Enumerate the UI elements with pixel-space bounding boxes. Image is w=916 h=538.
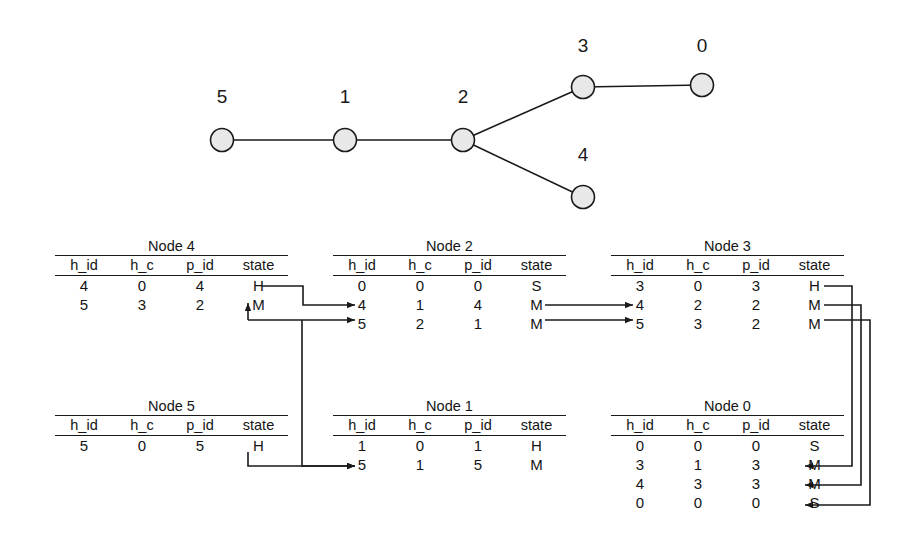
table-title: Node 2 [333, 238, 566, 255]
cell-p_id: 5 [449, 455, 507, 474]
column-header-state: state [507, 256, 566, 276]
column-header-p_id: p_id [727, 256, 785, 276]
column-header-h_id: h_id [611, 416, 669, 436]
table-node4: Node 4h_idh_cp_idstate404H532M [55, 238, 288, 314]
cell-state: S [507, 276, 566, 296]
column-header-h_id: h_id [55, 416, 113, 436]
cell-h_id: 3 [611, 455, 669, 474]
cell-state: H [229, 436, 288, 456]
table-grid: h_idh_cp_idstate000S313M433M000S [611, 416, 844, 512]
column-header-p_id: p_id [449, 256, 507, 276]
cell-h_c: 3 [669, 314, 727, 333]
cell-h_c: 1 [391, 455, 449, 474]
cell-h_id: 4 [611, 295, 669, 314]
table-header-row: h_idh_cp_idstate [333, 416, 566, 436]
cell-h_id: 5 [611, 314, 669, 333]
column-header-state: state [785, 256, 844, 276]
table-row: 521M [333, 314, 566, 333]
table-header-row: h_idh_cp_idstate [611, 256, 844, 276]
cell-p_id: 3 [727, 474, 785, 493]
table-title: Node 1 [333, 398, 566, 415]
cell-state: M [507, 295, 566, 314]
cell-p_id: 1 [449, 314, 507, 333]
cell-state: M [785, 455, 844, 474]
column-header-h_id: h_id [611, 256, 669, 276]
cell-p_id: 1 [449, 436, 507, 456]
column-header-p_id: p_id [449, 416, 507, 436]
cell-h_c: 0 [669, 276, 727, 296]
table-header-row: h_idh_cp_idstate [55, 256, 288, 276]
graph-node-3[interactable] [572, 76, 595, 99]
column-header-h_c: h_c [391, 416, 449, 436]
column-header-h_c: h_c [669, 256, 727, 276]
cell-h_c: 0 [391, 436, 449, 456]
cell-p_id: 3 [727, 276, 785, 296]
cell-h_id: 4 [55, 276, 113, 296]
graph-node-label-1: 1 [330, 87, 360, 106]
column-header-state: state [785, 416, 844, 436]
table-row: 515M [333, 455, 566, 474]
cell-p_id: 2 [171, 295, 229, 314]
graph-node-label-2: 2 [448, 87, 478, 106]
cell-h_c: 2 [391, 314, 449, 333]
table-row: 414M [333, 295, 566, 314]
cell-h_c: 3 [669, 474, 727, 493]
table-grid: h_idh_cp_idstate505H [55, 416, 288, 455]
table-title: Node 3 [611, 238, 844, 255]
figure-canvas: 512304 Node 4h_idh_cp_idstate404H532MNod… [0, 0, 916, 538]
column-header-state: state [507, 416, 566, 436]
cell-p_id: 4 [171, 276, 229, 296]
cell-p_id: 0 [727, 493, 785, 512]
column-header-h_id: h_id [55, 256, 113, 276]
column-header-h_c: h_c [113, 256, 171, 276]
cell-h_c: 1 [669, 455, 727, 474]
cell-state: M [785, 474, 844, 493]
cell-p_id: 2 [727, 314, 785, 333]
table-row: 000S [611, 436, 844, 456]
table-header-row: h_idh_cp_idstate [333, 256, 566, 276]
cell-h_c: 0 [669, 436, 727, 456]
column-header-p_id: p_id [727, 416, 785, 436]
table-row: 532M [55, 295, 288, 314]
table-node1: Node 1h_idh_cp_idstate101H515M [333, 398, 566, 474]
cell-h_c: 1 [391, 295, 449, 314]
cell-state: M [785, 314, 844, 333]
table-grid: h_idh_cp_idstate404H532M [55, 256, 288, 314]
cell-p_id: 0 [727, 436, 785, 456]
cell-state: M [785, 295, 844, 314]
cell-state: M [507, 314, 566, 333]
column-header-state: state [229, 256, 288, 276]
table-title: Node 0 [611, 398, 844, 415]
cell-state: H [785, 276, 844, 296]
column-header-h_c: h_c [391, 256, 449, 276]
table-row: 404H [55, 276, 288, 296]
graph-node-2[interactable] [452, 129, 475, 152]
table-row: 000S [611, 493, 844, 512]
cell-h_c: 0 [669, 493, 727, 512]
cell-h_id: 5 [55, 295, 113, 314]
cell-h_id: 3 [611, 276, 669, 296]
table-row: 313M [611, 455, 844, 474]
cell-h_id: 5 [333, 314, 391, 333]
table-node2: Node 2h_idh_cp_idstate000S414M521M [333, 238, 566, 333]
cell-p_id: 2 [727, 295, 785, 314]
cell-h_c: 0 [113, 276, 171, 296]
table-row: 532M [611, 314, 844, 333]
column-header-p_id: p_id [171, 416, 229, 436]
cell-p_id: 3 [727, 455, 785, 474]
graph-node-label-3: 3 [568, 36, 598, 55]
graph-node-1[interactable] [334, 129, 357, 152]
table-row: 422M [611, 295, 844, 314]
column-header-h_c: h_c [669, 416, 727, 436]
table-grid: h_idh_cp_idstate101H515M [333, 416, 566, 474]
table-title: Node 4 [55, 238, 288, 255]
graph-node-4[interactable] [572, 186, 595, 209]
column-header-state: state [229, 416, 288, 436]
table-node3: Node 3h_idh_cp_idstate303H422M532M [611, 238, 844, 333]
graph-node-0[interactable] [691, 74, 714, 97]
graph-node-label-4: 4 [568, 145, 598, 164]
table-row: 000S [333, 276, 566, 296]
column-header-h_id: h_id [333, 416, 391, 436]
cell-p_id: 5 [171, 436, 229, 456]
graph-node-5[interactable] [211, 129, 234, 152]
